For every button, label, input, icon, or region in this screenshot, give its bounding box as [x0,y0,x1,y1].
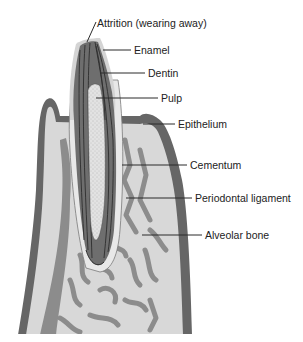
pulp-region [88,84,105,240]
label-attrition: Attrition (wearing away) [97,17,207,29]
label-periodontal-ligament: Periodontal ligament [195,192,291,204]
label-dentin: Dentin [148,67,179,79]
label-pulp: Pulp [161,92,182,104]
tooth-diagram: Attrition (wearing away) Enamel Dentin P… [0,0,303,342]
label-epithelium: Epithelium [178,118,227,130]
label-enamel: Enamel [134,44,170,56]
label-cementum: Cementum [190,159,242,171]
label-alveolar-bone: Alveolar bone [205,229,269,241]
